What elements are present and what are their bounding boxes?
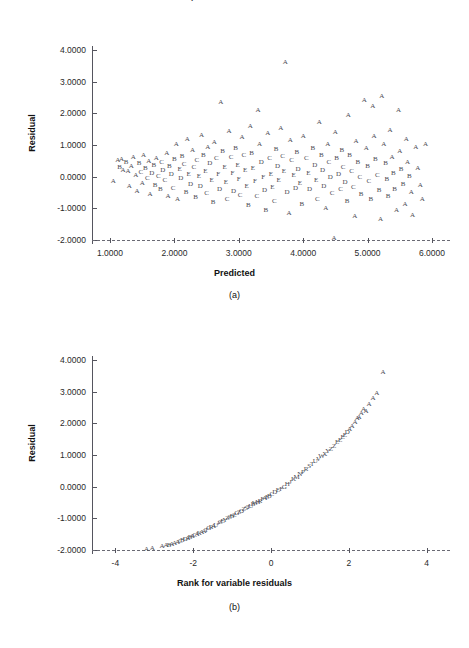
data-point: D <box>320 166 325 173</box>
data-point: A <box>164 149 169 156</box>
y-axis-tick-label: -2.0000 <box>30 545 86 555</box>
data-point: F <box>253 178 257 185</box>
data-point: A <box>248 123 253 130</box>
panel-caption-a: (a) <box>0 290 469 300</box>
data-point: D <box>188 180 193 187</box>
data-point: B <box>143 164 148 171</box>
data-point: D <box>169 171 174 178</box>
data-point: D <box>336 170 341 177</box>
data-point: B <box>401 180 406 187</box>
data-point: E <box>243 167 247 174</box>
data-point: B <box>294 149 299 156</box>
data-point: A <box>388 126 393 133</box>
x-axis-tick <box>193 548 194 553</box>
x-axis-tick-label: 4 <box>424 558 429 568</box>
y-axis-tick <box>92 392 97 393</box>
data-point: A <box>363 407 368 414</box>
data-point: A <box>394 206 399 213</box>
data-point: B <box>249 149 254 156</box>
y-axis-title-a: Residual <box>27 93 37 173</box>
data-point: A <box>288 137 293 144</box>
data-point: A <box>381 141 386 148</box>
x-axis-tick <box>368 238 369 243</box>
data-point: B <box>365 162 370 169</box>
data-point: B <box>137 160 142 167</box>
data-point: E <box>298 180 302 187</box>
y-axis-tick-label: -2.0000 <box>30 235 86 245</box>
data-point: E <box>277 176 281 183</box>
data-point: B <box>220 148 225 155</box>
data-point: A <box>265 130 270 137</box>
y-axis-tick <box>92 455 97 456</box>
data-point: A <box>146 157 151 164</box>
x-axis-tick-label: 1.0000 <box>97 248 123 258</box>
data-point: A <box>165 193 170 200</box>
data-point: D <box>231 187 236 194</box>
data-point: B <box>368 196 373 203</box>
x-axis-title-b: Rank for variable residuals <box>0 578 469 588</box>
data-point: A <box>374 390 379 397</box>
data-point: B <box>356 158 361 165</box>
data-point: D <box>275 162 280 169</box>
y-axis-tick-label: 1.0000 <box>30 140 86 150</box>
data-point: E <box>306 169 310 176</box>
data-point: B <box>399 165 404 172</box>
data-point: A <box>127 183 132 190</box>
data-point: B <box>153 181 158 188</box>
data-point: E <box>224 179 228 186</box>
data-point: C <box>330 190 335 197</box>
data-point: B <box>334 155 339 162</box>
data-point: F <box>237 176 241 183</box>
data-point: D <box>285 188 290 195</box>
data-point: E <box>203 168 207 175</box>
data-point: A <box>402 200 407 207</box>
y-axis-tick <box>92 177 97 178</box>
y-axis-tick <box>92 208 97 209</box>
data-point: A <box>140 180 145 187</box>
data-point: C <box>272 198 277 205</box>
y-axis-tick <box>92 423 97 424</box>
data-point: A <box>257 141 262 148</box>
data-point: D <box>178 175 183 182</box>
data-point: B <box>386 193 391 200</box>
data-point: D <box>207 160 212 167</box>
data-point: E <box>244 182 248 189</box>
data-point: B <box>347 152 352 159</box>
data-point: A <box>286 210 291 217</box>
y-axis-tick <box>92 518 97 519</box>
scatter-plot-predicted-vs-residual: -2.0000-1.00000.00001.00002.00003.00004.… <box>92 36 450 251</box>
data-point: D <box>198 183 203 190</box>
data-point: E <box>270 183 274 190</box>
x-axis-line <box>92 240 450 241</box>
data-point: C <box>341 164 346 171</box>
data-point: C <box>304 154 309 161</box>
data-point: A <box>205 143 210 150</box>
data-point: E <box>269 170 273 177</box>
data-point: B <box>345 198 350 205</box>
data-point: A <box>332 235 337 242</box>
data-point: D <box>296 165 301 172</box>
data-point: B <box>274 145 279 152</box>
y-axis-tick-label: -1.0000 <box>30 513 86 523</box>
x-axis-tick <box>427 548 428 553</box>
data-point: A <box>212 138 217 145</box>
data-point: E <box>210 177 214 184</box>
data-point: E <box>282 168 286 175</box>
data-point: C <box>182 161 187 168</box>
data-point: A <box>405 158 410 165</box>
data-point: D <box>149 169 154 176</box>
data-point: D <box>328 174 333 181</box>
data-point: A <box>415 164 420 171</box>
data-point: A <box>323 205 328 212</box>
data-point: A <box>371 133 376 140</box>
x-axis-tick-label: 2.0000 <box>161 248 187 258</box>
data-point: B <box>339 146 344 153</box>
x-axis-tick-label: 5.0000 <box>355 248 381 258</box>
panel-b: -2.0000-1.00000.00001.00002.00003.00004.… <box>0 318 469 648</box>
y-axis-tick <box>92 487 97 488</box>
x-axis-tick-label: 4.0000 <box>290 248 316 258</box>
data-point: A <box>239 134 244 141</box>
data-point: C <box>191 163 196 170</box>
data-point: A <box>418 181 423 188</box>
data-point: A <box>135 187 140 194</box>
